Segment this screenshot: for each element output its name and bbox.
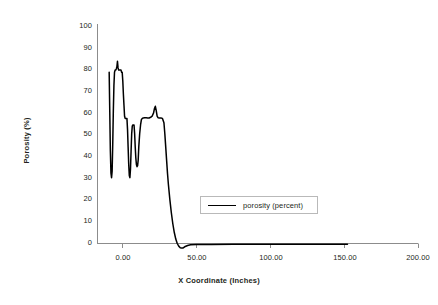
y-tick-label-0: 0 xyxy=(66,238,92,247)
y-tick-label-90: 90 xyxy=(66,43,92,52)
y-tick-label-60: 60 xyxy=(66,108,92,117)
y-tick-label-80: 80 xyxy=(66,64,92,73)
x-tick-label-100: 100.00 xyxy=(251,253,291,262)
y-tick-label-40: 40 xyxy=(66,151,92,160)
y-tick-label-70: 70 xyxy=(66,86,92,95)
legend-label-porosity: porosity (percent) xyxy=(243,201,303,210)
y-tick-label-20: 20 xyxy=(66,194,92,203)
data-line-porosity xyxy=(109,61,347,248)
legend-line-swatch xyxy=(208,205,236,206)
y-tick-label-50: 50 xyxy=(66,129,92,138)
y-tick-label-100: 100 xyxy=(66,21,92,30)
y-axis-title: Porosity (%) xyxy=(22,93,31,189)
porosity-line-chart: 100 90 80 70 60 50 40 30 20 10 0 0.00 50… xyxy=(0,0,438,305)
x-tick-label-200: 200.00 xyxy=(398,253,438,262)
x-axis-title: X Coordinate (Inches) xyxy=(109,276,329,285)
x-tick-label-0: 0.00 xyxy=(103,253,143,262)
y-tick-label-30: 30 xyxy=(66,173,92,182)
x-tick-label-150: 150.00 xyxy=(325,253,365,262)
y-tick-label-10: 10 xyxy=(66,216,92,225)
chart-legend: porosity (percent) xyxy=(200,196,318,214)
x-tick-label-50: 50.00 xyxy=(177,253,217,262)
